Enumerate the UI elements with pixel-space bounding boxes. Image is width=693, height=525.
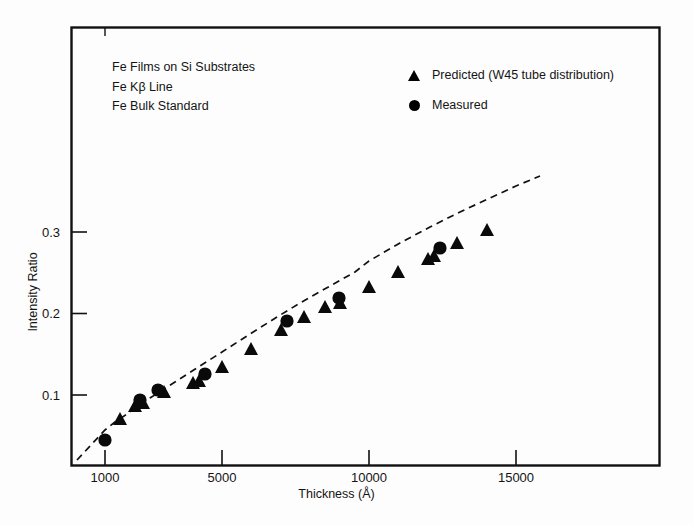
legend-label-predicted: Predicted (W45 tube distribution) xyxy=(432,67,614,84)
triangle-marker-icon xyxy=(408,69,421,82)
legend-item-measured: Measured xyxy=(408,90,614,120)
x-tick-label-1000: 1000 xyxy=(91,470,120,485)
caption-line-1: Fe Films on Si Substrates xyxy=(112,58,255,78)
caption-line-2: Fe Kβ Line xyxy=(112,78,255,98)
circle-marker-icon xyxy=(408,99,421,112)
caption-line-3: Fe Bulk Standard xyxy=(112,97,255,117)
legend: Predicted (W45 tube distribution) Measur… xyxy=(408,60,614,120)
trend-line xyxy=(77,176,540,460)
y-axis-ticks xyxy=(72,232,88,395)
legend-item-predicted: Predicted (W45 tube distribution) xyxy=(408,60,614,90)
x-tick-label-15000: 15000 xyxy=(498,470,534,485)
y-tick-label-01: 0.1 xyxy=(42,388,60,403)
caption-block: Fe Films on Si Substrates Fe Kβ Line Fe … xyxy=(112,58,255,117)
x-tick-label-5000: 5000 xyxy=(208,470,237,485)
y-tick-label-02: 0.2 xyxy=(42,306,60,321)
legend-label-measured: Measured xyxy=(432,97,488,114)
x-axis-ticks xyxy=(105,450,516,465)
figure-canvas: Fe Films on Si Substrates Fe Kβ Line Fe … xyxy=(0,0,693,525)
x-axis-title: Thickness (Å) xyxy=(298,487,374,501)
y-tick-label-03: 0.3 xyxy=(42,225,60,240)
y-axis-title: Intensity Ratio xyxy=(26,232,40,352)
x-tick-label-10000: 10000 xyxy=(351,470,387,485)
x-axis-title-wrap: Thickness (Å) xyxy=(0,487,693,501)
